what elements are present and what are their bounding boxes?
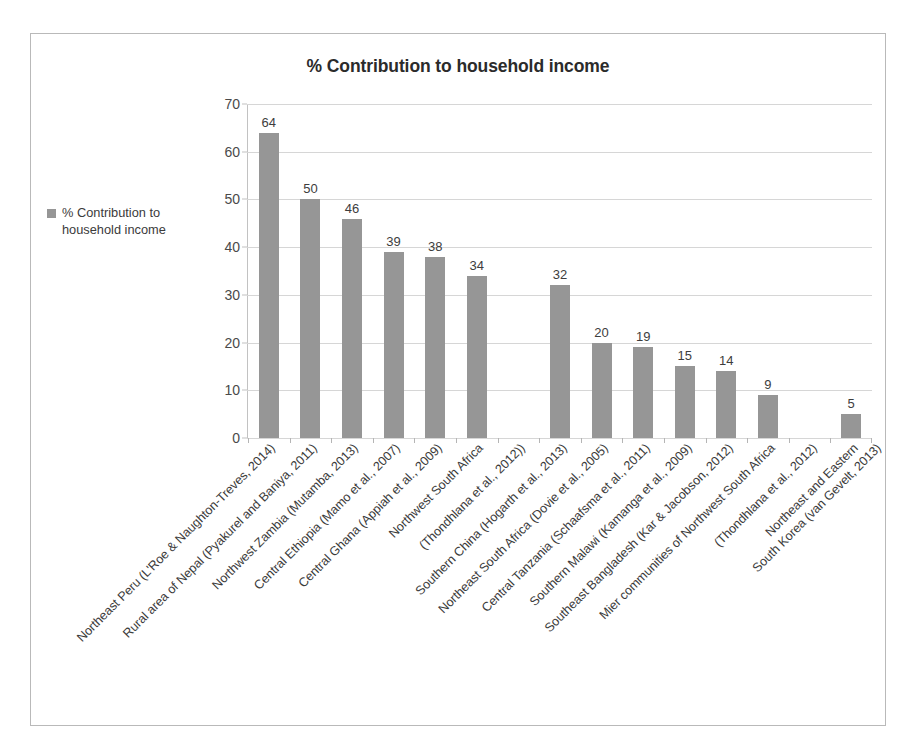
bar-slot: 50	[290, 104, 332, 438]
y-tick-label: 30	[224, 287, 240, 303]
bar-slot: 20	[581, 104, 623, 438]
bar-value-label: 34	[470, 258, 484, 273]
y-tick-label: 20	[224, 335, 240, 351]
y-tick-mark	[242, 390, 247, 391]
bar-slot: 19	[622, 104, 664, 438]
x-category-label-text: Northeast Peru (L'Roe & Naughton-Treves,…	[74, 441, 278, 645]
bar[interactable]	[716, 371, 736, 438]
y-tick-label: 0	[232, 430, 240, 446]
bar-series: 645046393834322019151495	[248, 104, 872, 438]
y-tick-label: 10	[224, 382, 240, 398]
y-tick-label: 50	[224, 191, 240, 207]
bar-slot: 38	[414, 104, 456, 438]
bar-slot: 32	[539, 104, 581, 438]
x-category-label-text: Southern China (Hogarth et al., 2013)	[412, 441, 569, 598]
y-tick-mark	[242, 342, 247, 343]
bar[interactable]	[675, 366, 695, 438]
bar-value-label: 32	[553, 267, 567, 282]
bar-slot: 15	[664, 104, 706, 438]
chart-legend: % Contribution to household income	[47, 204, 197, 238]
bar-slot	[498, 104, 540, 438]
bar-value-label: 14	[719, 353, 733, 368]
bar[interactable]	[467, 276, 487, 438]
bar-value-label: 39	[386, 234, 400, 249]
bar-slot: 9	[747, 104, 789, 438]
bar-slot: 34	[456, 104, 498, 438]
bar[interactable]	[550, 285, 570, 438]
y-tick-label: 70	[224, 96, 240, 112]
bar-value-label: 20	[594, 325, 608, 340]
bar-slot	[789, 104, 831, 438]
bar-value-label: 5	[847, 396, 854, 411]
bar[interactable]	[758, 395, 778, 438]
bar-value-label: 64	[262, 115, 276, 130]
bar[interactable]	[425, 257, 445, 438]
y-tick-mark	[242, 104, 247, 105]
y-tick-mark	[242, 294, 247, 295]
x-category-label-text: Rural area of Nepal (Pyakurel and Baniya…	[120, 441, 320, 641]
bar-value-label: 15	[678, 348, 692, 363]
x-axis-category-labels: Northeast Peru (L'Roe & Naughton-Treves,…	[247, 439, 872, 739]
bar-value-label: 38	[428, 239, 442, 254]
bar[interactable]	[592, 343, 612, 438]
chart-title: % Contribution to household income	[31, 56, 885, 77]
bar[interactable]	[633, 347, 653, 438]
bar-value-label: 46	[345, 201, 359, 216]
bar-slot: 64	[248, 104, 290, 438]
bar-value-label: 19	[636, 329, 650, 344]
y-tick-mark	[242, 247, 247, 248]
bar[interactable]	[384, 252, 404, 438]
chart-frame: % Contribution to household income % Con…	[30, 33, 886, 726]
bar[interactable]	[259, 133, 279, 438]
legend-series-label: % Contribution to household income	[62, 204, 182, 238]
y-tick-mark	[242, 199, 247, 200]
bar[interactable]	[342, 219, 362, 438]
legend-color-swatch	[47, 209, 56, 218]
bar-value-label: 9	[764, 377, 771, 392]
bar[interactable]	[300, 199, 320, 438]
page-canvas: % Contribution to household income % Con…	[0, 0, 916, 751]
bar-value-label: 50	[303, 181, 317, 196]
y-tick-label: 60	[224, 144, 240, 160]
plot-area: 010203040506070 645046393834322019151495	[247, 104, 872, 439]
x-category-label-text: South Korea (van Gevelt, 2013)	[750, 441, 884, 575]
y-tick-mark	[242, 151, 247, 152]
bar-slot: 39	[373, 104, 415, 438]
bar-slot: 14	[706, 104, 748, 438]
bar-slot: 46	[331, 104, 373, 438]
bar[interactable]	[841, 414, 861, 438]
y-tick-label: 40	[224, 239, 240, 255]
bar-slot: 5	[830, 104, 872, 438]
